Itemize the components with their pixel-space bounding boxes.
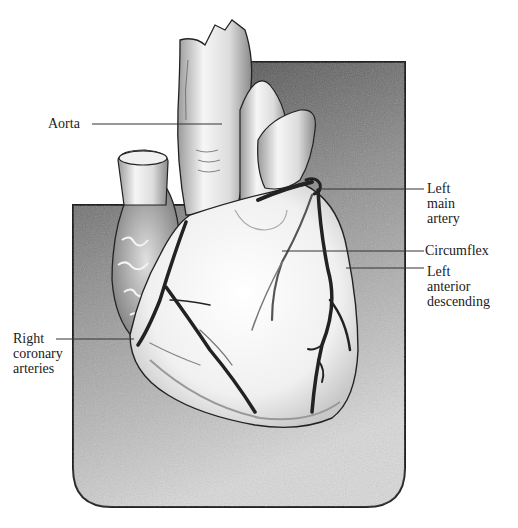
- label-rca-line2: coronary: [13, 346, 63, 361]
- label-left-main-line1: Left: [427, 181, 460, 196]
- label-lad-line1: Left: [427, 264, 490, 279]
- label-lad-line2: anterior: [427, 279, 490, 294]
- label-left-main-line3: artery: [427, 211, 460, 226]
- label-rca-line3: arteries: [13, 361, 63, 376]
- label-aorta: Aorta: [48, 116, 80, 131]
- label-right-coronary-arteries: Right coronary arteries: [13, 331, 63, 376]
- label-lad-line3: descending: [427, 294, 490, 309]
- heart-diagram: Aorta Left main artery Circumflex Left a…: [0, 0, 518, 528]
- label-left-anterior-descending: Left anterior descending: [427, 264, 490, 309]
- label-left-main-line2: main: [427, 196, 460, 211]
- label-circumflex: Circumflex: [425, 243, 489, 258]
- label-rca-line1: Right: [13, 331, 63, 346]
- label-left-main-artery: Left main artery: [427, 181, 460, 226]
